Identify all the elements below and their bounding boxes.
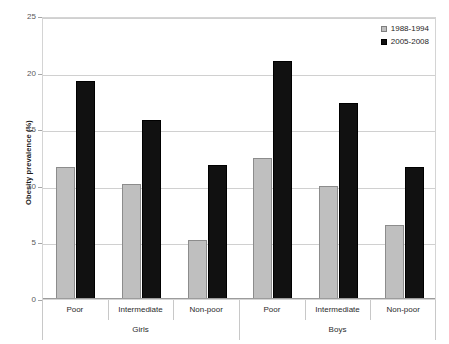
obesity-prevalence-bar-chart: Obesity prevalence (%) 0510152025 1988-1…: [0, 0, 449, 344]
x-category-label: Non-poor: [370, 302, 436, 318]
bar-2005-2008-Non-poor: [208, 165, 227, 299]
legend-item-1988-1994: 1988-1994: [381, 24, 429, 33]
x-category-label: Poor: [239, 302, 305, 318]
y-tick-label: 10: [10, 183, 36, 191]
x-axis-separator: [173, 300, 174, 320]
bar-1988-1994-Non-poor: [188, 240, 207, 299]
x-category-label: Intermediate: [305, 302, 371, 318]
gridline: [43, 244, 435, 245]
x-axis-separator: [42, 300, 43, 340]
y-tick-label: 0: [10, 296, 36, 304]
legend-swatch-icon-new: [381, 39, 387, 45]
bar-1988-1994-Poor: [56, 167, 75, 299]
gridline: [43, 75, 435, 76]
bar-1988-1994-Poor: [253, 158, 272, 300]
y-tick-label: 5: [10, 239, 36, 247]
bar-2005-2008-Non-poor: [405, 167, 424, 299]
x-category-label: Intermediate: [108, 302, 174, 318]
gridline: [43, 131, 435, 132]
bar-1988-1994-Non-poor: [385, 225, 404, 299]
x-axis-separator: [108, 300, 109, 320]
x-category-label: Non-poor: [173, 302, 239, 318]
x-axis-separator: [370, 300, 371, 320]
gridline: [43, 18, 435, 19]
x-axis: PoorIntermediateNon-poorPoorIntermediate…: [42, 300, 436, 344]
plot-area: 1988-1994 2005-2008: [42, 17, 436, 300]
bar-1988-1994-Intermediate: [319, 186, 338, 299]
bar-1988-1994-Intermediate: [122, 184, 141, 299]
bar-2005-2008-Poor: [76, 81, 95, 299]
x-group-label: Girls: [42, 322, 239, 338]
chart-legend: 1988-1994 2005-2008: [381, 24, 429, 46]
y-tick-label: 25: [10, 13, 36, 21]
x-category-label: Poor: [42, 302, 108, 318]
gridline: [43, 188, 435, 189]
bar-2005-2008-Poor: [273, 61, 292, 299]
legend-label-old: 1988-1994: [391, 24, 429, 33]
x-axis-separator: [435, 300, 436, 340]
bar-2005-2008-Intermediate: [339, 103, 358, 299]
y-axis-title: Obesity prevalence (%): [24, 73, 33, 253]
legend-swatch-icon-old: [381, 26, 387, 32]
y-tick-label: 15: [10, 126, 36, 134]
x-axis-separator: [305, 300, 306, 320]
legend-item-2005-2008: 2005-2008: [381, 37, 429, 46]
legend-label-new: 2005-2008: [391, 37, 429, 46]
x-axis-separator: [239, 300, 240, 340]
x-axis-baseline: [43, 298, 435, 299]
bar-2005-2008-Intermediate: [142, 120, 161, 299]
y-tick-label: 20: [10, 70, 36, 78]
x-group-label: Boys: [239, 322, 436, 338]
